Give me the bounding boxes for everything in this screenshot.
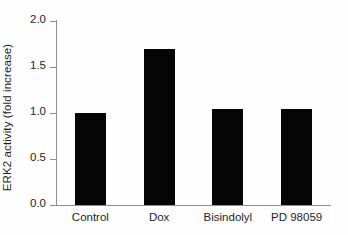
bar	[281, 109, 312, 205]
x-axis-category-label: Bisindolyl	[194, 211, 263, 224]
x-axis-category-label: PD 98059	[262, 211, 331, 224]
y-axis-tick-label: 2.0	[2, 14, 46, 26]
y-axis-tick-label: 0.5	[2, 152, 46, 164]
bars-group	[56, 21, 331, 205]
x-axis-category-label: Control	[56, 211, 125, 224]
x-axis-category-label: Dox	[125, 211, 194, 224]
bar-chart-figure: ERK2 activity (fold increase) 0.00.51.01…	[0, 0, 348, 235]
y-axis-tick	[50, 205, 56, 206]
x-axis-line	[56, 205, 331, 206]
bar	[144, 49, 175, 205]
y-axis-tick-label: 1.5	[2, 60, 46, 72]
x-axis-category-labels: ControlDoxBisindolylPD 98059	[56, 211, 331, 231]
bar	[212, 109, 243, 205]
bar	[75, 113, 106, 205]
y-axis-tick-label: 1.0	[2, 106, 46, 118]
y-axis-tick-label: 0.0	[2, 198, 46, 210]
